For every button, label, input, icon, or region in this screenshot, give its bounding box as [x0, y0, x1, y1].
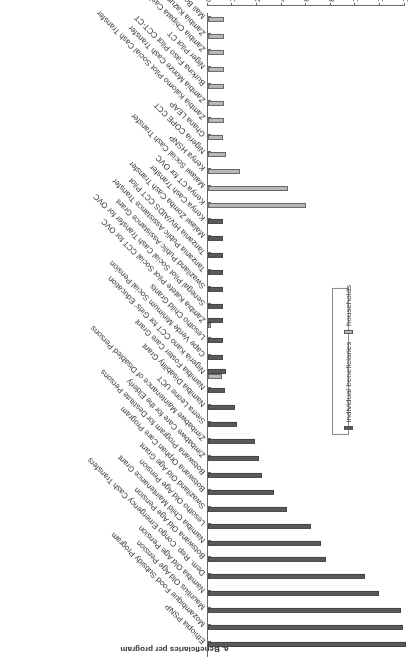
bar-individual-beneficiaries — [208, 355, 223, 360]
bar-individual-beneficiaries — [208, 490, 274, 495]
category-tick — [208, 286, 211, 287]
bar-individual-beneficiaries — [208, 389, 225, 394]
legend-label-individual: individual beneficiaries — [344, 342, 353, 423]
bar-individual-beneficiaries — [208, 574, 365, 579]
bar-individual-beneficiaries — [208, 608, 401, 613]
value-tick-label: 0 — [204, 0, 213, 2]
category-tick — [208, 66, 211, 67]
category-tick — [208, 573, 211, 574]
bar-individual-beneficiaries — [208, 287, 223, 292]
category-tick — [208, 303, 211, 304]
category-tick — [208, 16, 211, 17]
bar-households — [208, 186, 288, 191]
category-tick — [208, 50, 211, 51]
bar-individual-beneficiaries — [208, 591, 379, 596]
plot-area: 01020406080100120140 thousands of benefi… — [0, 0, 208, 660]
legend-swatch-households — [344, 330, 353, 334]
bar-households — [208, 101, 224, 106]
category-tick — [208, 235, 211, 236]
value-tick-label: 140 — [401, 0, 410, 2]
category-tick — [208, 607, 211, 608]
value-tick-label: 40 — [278, 0, 287, 2]
bar-individual-beneficiaries — [208, 524, 311, 529]
category-tick — [208, 523, 211, 524]
value-tick-label: 60 — [302, 0, 311, 2]
bar-households — [208, 374, 222, 379]
legend-label-households: households — [344, 285, 353, 326]
category-tick — [208, 252, 211, 253]
bar-households — [208, 67, 224, 72]
bar-households — [208, 323, 211, 328]
category-tick — [208, 371, 211, 372]
category-tick — [208, 624, 211, 625]
bar-households — [208, 135, 223, 140]
category-tick — [208, 134, 211, 135]
bar-individual-beneficiaries — [208, 558, 326, 563]
bar-individual-beneficiaries — [208, 338, 223, 343]
bar-households — [208, 51, 224, 56]
category-tick — [208, 489, 211, 490]
bar-individual-beneficiaries — [208, 304, 223, 309]
legend: individual beneficiaries households — [332, 288, 349, 435]
category-tick — [208, 354, 211, 355]
category-tick — [208, 455, 211, 456]
bar-households — [208, 84, 224, 89]
category-tick — [208, 557, 211, 558]
category-tick — [208, 641, 211, 642]
bar-individual-beneficiaries — [208, 439, 255, 444]
bar-households — [208, 169, 240, 174]
legend-swatch-individual — [344, 426, 353, 430]
category-tick — [208, 540, 211, 541]
bar-households — [208, 118, 224, 123]
bar-individual-beneficiaries — [208, 405, 235, 410]
category-tick — [208, 219, 211, 220]
category-tick — [208, 337, 211, 338]
category-tick — [208, 404, 211, 405]
bar-individual-beneficiaries — [208, 507, 287, 512]
category-tick — [208, 151, 211, 152]
bar-individual-beneficiaries — [208, 422, 237, 427]
bar-individual-beneficiaries — [208, 236, 223, 241]
bar-households — [208, 152, 226, 157]
category-tick — [208, 421, 211, 422]
value-tick-label: 80 — [327, 0, 336, 2]
bar-individual-beneficiaries — [208, 270, 223, 275]
category-tick — [208, 117, 211, 118]
value-tick-label: 10 — [229, 0, 238, 2]
category-tick — [208, 472, 211, 473]
category-tick — [208, 320, 211, 321]
category-tick — [208, 202, 211, 203]
category-tick — [208, 438, 211, 439]
value-tick-label: 100 — [351, 0, 360, 2]
category-tick — [208, 185, 211, 186]
category-tick — [208, 33, 211, 34]
value-tick-label: 120 — [376, 0, 385, 2]
bar-individual-beneficiaries — [208, 220, 223, 225]
category-tick — [208, 83, 211, 84]
value-axis-baseline — [208, 5, 405, 6]
bar-individual-beneficiaries — [208, 642, 406, 647]
category-tick — [208, 100, 211, 101]
category-tick — [208, 506, 211, 507]
bar-households — [208, 34, 224, 39]
bar-individual-beneficiaries — [208, 253, 223, 258]
bar-individual-beneficiaries — [208, 473, 262, 478]
category-tick — [208, 590, 211, 591]
category-tick — [208, 269, 211, 270]
bar-individual-beneficiaries — [208, 541, 321, 546]
category-tick — [208, 388, 211, 389]
category-tick — [208, 168, 211, 169]
bar-individual-beneficiaries — [208, 625, 403, 630]
bar-households — [208, 203, 306, 208]
value-tick-label: 20 — [253, 0, 262, 2]
bar-individual-beneficiaries — [208, 456, 259, 461]
bar-households — [208, 17, 224, 22]
